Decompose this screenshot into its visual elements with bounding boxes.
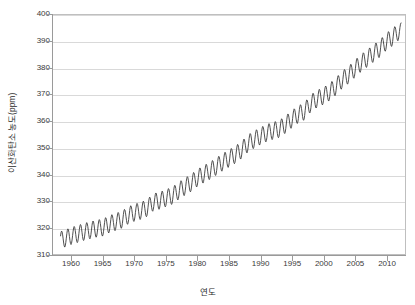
co2-series-line — [53, 15, 405, 254]
x-axis-label-text: 연도 — [0, 285, 415, 297]
co2-concentration-chart: 이산화탄소 농도(ppm) 31032033034035036037038039… — [0, 0, 415, 305]
plot-area — [52, 14, 406, 255]
y-tick-mark — [47, 121, 52, 122]
y-axis-label-text: 이산화탄소 농도(ppm) — [5, 92, 17, 173]
y-axis-label: 이산화탄소 농도(ppm) — [0, 0, 22, 265]
y-tick-mark — [47, 41, 52, 42]
y-tick-mark — [47, 201, 52, 202]
y-tick-mark — [47, 94, 52, 95]
y-tick-mark — [47, 255, 52, 256]
y-tick-mark — [47, 228, 52, 229]
y-tick-mark — [47, 68, 52, 69]
y-tick-mark — [47, 14, 52, 15]
x-tick-label: 2010 — [367, 259, 407, 268]
y-axis-spine — [52, 14, 53, 255]
y-tick-mark — [47, 148, 52, 149]
y-tick-mark — [47, 175, 52, 176]
y-axis-tick-labels: 310320330340350360370380390400 — [22, 0, 50, 265]
